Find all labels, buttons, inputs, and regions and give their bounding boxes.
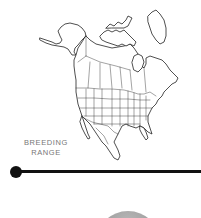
divider-line (16, 170, 201, 173)
arctic-islands-north (106, 16, 132, 28)
greenland-outline (148, 10, 166, 44)
label-line-1: BREEDING (18, 138, 74, 148)
breeding-range-label: BREEDING RANGE (18, 138, 74, 158)
gray-circle-icon (96, 211, 160, 218)
label-line-2: RANGE (18, 148, 74, 158)
arctic-islands-outline (100, 30, 136, 46)
timeline-dot-icon (10, 166, 22, 178)
